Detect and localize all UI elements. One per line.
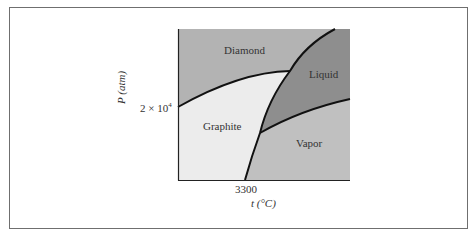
y-tick-label: 2 × 104	[140, 101, 172, 114]
x-axis-label: t (°C)	[251, 197, 276, 209]
y-axis-label: P (atm)	[115, 71, 127, 104]
region-label-liquid: Liquid	[309, 68, 338, 80]
x-tick-label: 3300	[235, 183, 257, 195]
region-label-vapor: Vapor	[296, 137, 322, 149]
region-label-diamond: Diamond	[224, 44, 265, 56]
region-label-graphite: Graphite	[203, 120, 241, 132]
